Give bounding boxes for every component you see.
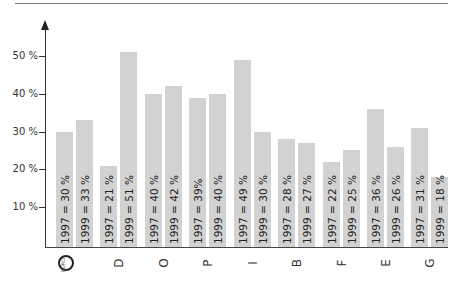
- top-rule: [15, 3, 448, 4]
- bar-value-label: 1999 = 25 %: [346, 175, 358, 244]
- bar-value-label: 1999 = 27 %: [301, 175, 313, 244]
- y-tick: [39, 94, 45, 95]
- x-label-b: B: [290, 254, 304, 272]
- y-tick: [39, 56, 45, 57]
- x-label-i: I: [246, 254, 260, 272]
- bar-p-1999: 1999 = 40 %: [209, 94, 226, 247]
- bar-value-label: 1997 = 22 %: [326, 175, 338, 244]
- bar-e-1997: 1997 = 36 %: [367, 109, 384, 247]
- bar-i-1997: 1997 = 49 %: [234, 60, 251, 247]
- y-axis-arrow-icon: [41, 20, 49, 30]
- bar-f-1999: 1999 = 25 %: [343, 150, 360, 247]
- bar-o-1999: 1999 = 42 %: [165, 86, 182, 247]
- bar-value-label: 1997 = 31 %: [414, 175, 426, 244]
- bar-value-label: 1997 = 30 %: [59, 175, 71, 244]
- x-label-f: F: [335, 254, 349, 272]
- bar-eu-1997: 1997 = 30 %: [56, 132, 73, 247]
- bar-f-1997: 1997 = 22 %: [323, 162, 340, 247]
- bar-value-label: 1997 = 28 %: [281, 175, 293, 244]
- bar-i-1999: 1999 = 30 %: [254, 132, 271, 247]
- y-tick-label: 40 %: [6, 88, 38, 100]
- y-tick-label: 10 %: [6, 201, 38, 213]
- y-tick: [39, 169, 45, 170]
- y-tick: [39, 207, 45, 208]
- bar-value-label: 1997 = 39%: [192, 178, 204, 244]
- bar-value-label: 1999 = 30 %: [257, 175, 269, 244]
- bar-g-1997: 1997 = 31 %: [411, 128, 428, 247]
- y-tick-label: 20 %: [6, 163, 38, 175]
- bar-value-label: 1999 = 51 %: [123, 175, 135, 244]
- x-label-e: E: [379, 254, 393, 272]
- x-label-o: O: [157, 254, 171, 272]
- bar-value-label: 1997 = 21 %: [103, 175, 115, 244]
- y-tick-label: 50 %: [6, 50, 38, 62]
- eu-icon-text: EURO: [60, 258, 66, 272]
- bar-eu-1999: 1999 = 33 %: [76, 120, 93, 247]
- bar-value-label: 1999 = 42 %: [168, 175, 180, 244]
- x-label-g: G: [423, 254, 437, 272]
- bar-o-1997: 1997 = 40 %: [145, 94, 162, 247]
- bar-value-label: 1997 = 40 %: [148, 175, 160, 244]
- x-axis: [45, 247, 448, 248]
- bar-d-1999: 1999 = 51 %: [120, 52, 137, 247]
- bar-value-label: 1999 = 33 %: [79, 175, 91, 244]
- bar-g-1999: 1999 = 18 %: [431, 177, 448, 247]
- x-label-d: D: [112, 254, 126, 272]
- bar-p-1997: 1997 = 39%: [189, 98, 206, 247]
- x-label-p: P: [201, 254, 215, 272]
- y-tick: [39, 132, 45, 133]
- bar-value-label: 1997 = 36 %: [370, 175, 382, 244]
- y-tick-label: 30 %: [6, 126, 38, 138]
- bar-d-1997: 1997 = 21 %: [100, 166, 117, 247]
- y-axis: [45, 28, 46, 248]
- bar-e-1999: 1999 = 26 %: [387, 147, 404, 247]
- bar-value-label: 1999 = 26 %: [390, 175, 402, 244]
- bar-value-label: 1999 = 18 %: [434, 175, 446, 244]
- bar-b-1999: 1999 = 27 %: [298, 143, 315, 247]
- bar-b-1997: 1997 = 28 %: [278, 139, 295, 247]
- bar-value-label: 1999 = 40 %: [212, 175, 224, 244]
- bar-value-label: 1997 = 49 %: [237, 175, 249, 244]
